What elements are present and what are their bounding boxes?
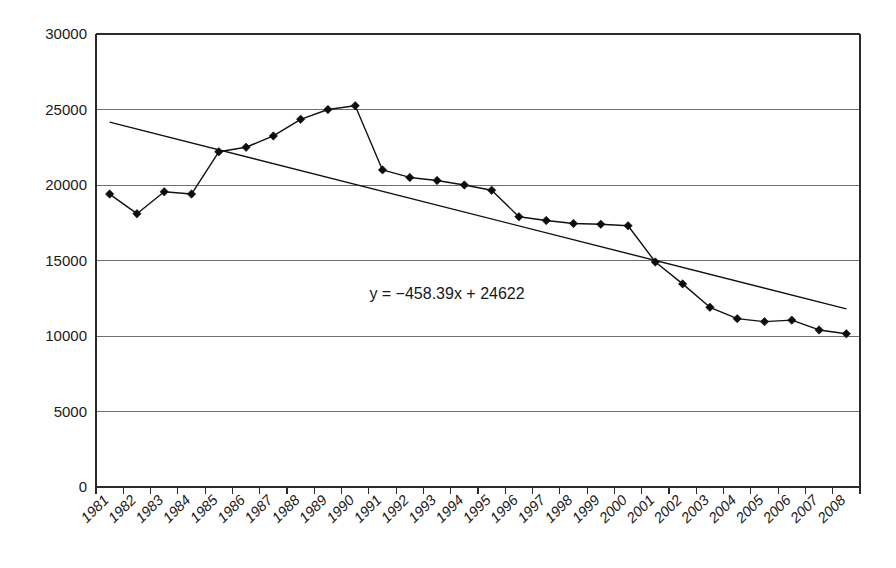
line-chart-figure: 300002500020000150001000050000 198119821… — [0, 0, 896, 568]
y-tick-label: 0 — [79, 478, 87, 495]
chart-canvas: 300002500020000150001000050000 198119821… — [0, 0, 896, 568]
y-tick-label: 25000 — [45, 101, 87, 118]
y-tick-label: 5000 — [54, 403, 87, 420]
y-tick-label: 15000 — [45, 252, 87, 269]
y-tick-label: 20000 — [45, 176, 87, 193]
chart-background — [0, 0, 896, 568]
y-tick-label: 10000 — [45, 327, 87, 344]
trendline-equation-label: y = −458.39x + 24622 — [369, 285, 524, 302]
y-tick-label: 30000 — [45, 25, 87, 42]
